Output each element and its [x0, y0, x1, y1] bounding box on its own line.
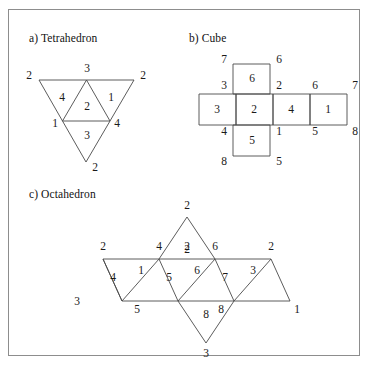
cube-vertex-label-row-top-mid2: 6 [312, 80, 318, 92]
tetrahedron-vertex-label-left: 2 [26, 70, 32, 82]
cube-face-label-5: 5 [249, 135, 255, 147]
octahedron-face-label-8: 8 [203, 309, 209, 321]
tetrahedron-face-label-3: 3 [84, 130, 90, 142]
octahedron-face-label-5: 5 [166, 272, 172, 284]
octahedron-face-label-6: 6 [194, 265, 200, 277]
tetrahedron-vertex-label-mid-left: 1 [52, 118, 58, 130]
cube-vertex-label-row-top-right: 7 [352, 80, 358, 92]
octahedron-vertex-label-bot-4: 1 [294, 304, 300, 316]
octahedron-vertex-label-bot-3: 8 [218, 304, 224, 316]
octahedron-net-drawing [84, 215, 324, 360]
octahedron-face-label-7: 7 [222, 272, 228, 284]
section-caption-tetrahedron: a) Tetrahedron [29, 32, 97, 44]
cube-vertex-label-bottom-left: 8 [221, 156, 227, 168]
section-caption-cube: b) Cube [189, 32, 226, 44]
figure-border: a) Tetrahedron 4 2 1 3 2 3 2 1 4 2 b) Cu… [8, 9, 360, 356]
octahedron-face-label-1: 1 [138, 265, 144, 277]
cube-face-label-2: 2 [251, 104, 257, 116]
octahedron-vertex-label-apex-bottom: 3 [203, 348, 209, 360]
tetrahedron-vertex-label-apex: 2 [92, 162, 98, 174]
section-caption-octahedron: c) Octahedron [29, 188, 96, 200]
cube-vertex-label-row-bot-mid: 1 [276, 126, 282, 138]
cube-vertex-label-row-top-left: 3 [221, 80, 227, 92]
tetrahedron-vertex-label-top: 3 [84, 63, 90, 75]
octahedron-vertex-label-bot-2: 5 [134, 304, 140, 316]
tetrahedron-vertex-label-right: 2 [140, 70, 146, 82]
tetrahedron-face-label-2: 2 [84, 101, 90, 113]
octahedron-vertex-label-top-1: 2 [100, 241, 106, 253]
octahedron-vertex-label-bot-1: 3 [74, 296, 80, 308]
cube-vertex-label-row-bot-left: 4 [221, 126, 227, 138]
octahedron-vertex-label-apex-top: 2 [184, 200, 190, 212]
tetrahedron-face-label-1: 1 [108, 92, 114, 104]
octahedron-vertex-label-top-4: 6 [212, 241, 218, 253]
cube-face-label-3: 3 [214, 104, 220, 116]
cube-face-label-4: 4 [288, 104, 294, 116]
cube-vertex-label-top-left: 7 [221, 54, 227, 66]
tetrahedron-face-label-4: 4 [59, 92, 65, 104]
tetrahedron-vertex-label-mid-right: 4 [114, 118, 120, 130]
cube-vertex-label-row-bot-right: 8 [352, 126, 358, 138]
octahedron-vertex-label-top-3: 2 [184, 241, 190, 253]
cube-vertex-label-row-top-mid: 2 [276, 80, 282, 92]
octahedron-vertex-label-top-2: 4 [156, 241, 162, 253]
cube-vertex-label-bottom-right: 5 [276, 156, 282, 168]
cube-face-label-1: 1 [325, 104, 331, 116]
octahedron-face-label-4: 4 [110, 272, 116, 284]
cube-face-label-6: 6 [249, 73, 255, 85]
cube-vertex-label-row-bot-mid2: 5 [312, 126, 318, 138]
octahedron-vertex-label-top-5: 2 [268, 241, 274, 253]
cube-vertex-label-top-right: 6 [276, 54, 282, 66]
octahedron-face-label-3: 3 [250, 265, 256, 277]
